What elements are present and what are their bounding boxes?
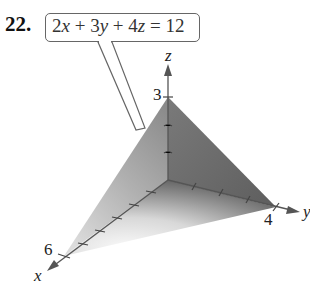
x-axis-label: x [34, 266, 42, 286]
z-axis-label: z [165, 46, 172, 66]
y-intercept-label: 4 [264, 210, 273, 230]
y-axis-arrow-icon [286, 206, 300, 214]
x-intercept-label: 6 [44, 240, 53, 260]
x-axis-arrow-icon [47, 260, 59, 271]
y-axis-label: y [303, 202, 310, 222]
z-intercept-label: 3 [153, 85, 162, 105]
callout-pointer [98, 42, 145, 130]
